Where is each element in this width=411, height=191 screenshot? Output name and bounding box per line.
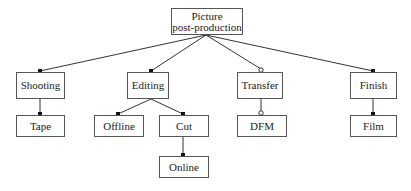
node-finish: Finish — [350, 72, 397, 99]
node-cut: Cut — [159, 115, 209, 137]
node-label: Shooting — [21, 80, 61, 91]
node-label: Offline — [103, 121, 135, 132]
node-label: Tape — [30, 121, 51, 132]
node-label-line1: Picture — [191, 11, 222, 22]
node-label: Transfer — [242, 80, 279, 91]
edge-root-shooting — [40, 35, 206, 71]
node-label: Editing — [132, 80, 164, 91]
node-tape: Tape — [16, 115, 65, 137]
node-label: Cut — [176, 121, 192, 132]
node-shooting: Shooting — [16, 72, 65, 99]
edge-root-finish — [206, 35, 373, 71]
node-label: Film — [363, 121, 384, 132]
node-picture-post-production: Picture post-production — [171, 8, 243, 35]
edge-editing-cut — [151, 99, 183, 114]
tree-diagram: Picture post-production Shooting Editing… — [0, 0, 411, 191]
node-offline: Offline — [94, 115, 144, 137]
node-label: Finish — [360, 80, 388, 91]
node-film: Film — [350, 115, 397, 137]
node-online: Online — [159, 156, 209, 178]
node-editing: Editing — [127, 72, 169, 99]
edge-editing-offline — [118, 99, 151, 114]
node-label-line2: post-production — [172, 22, 242, 33]
edge-root-editing — [151, 35, 206, 71]
node-transfer: Transfer — [237, 72, 283, 99]
node-label: Online — [169, 162, 199, 173]
node-label: DFM — [250, 121, 274, 132]
node-dfm: DFM — [237, 115, 287, 137]
edge-root-transfer — [206, 35, 261, 69]
